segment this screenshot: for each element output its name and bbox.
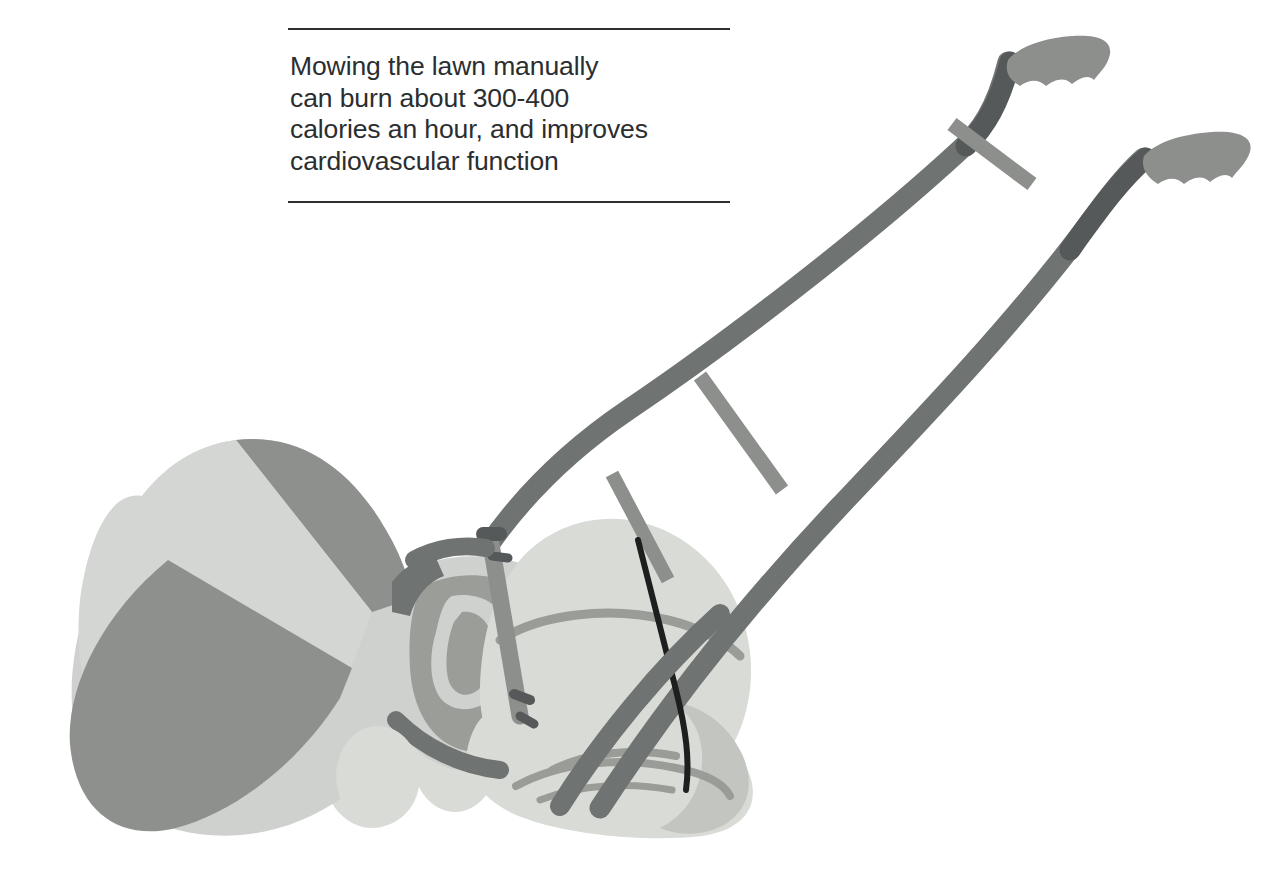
caption-text: Mowing the lawn manually can burn about … bbox=[288, 30, 730, 201]
mower-body bbox=[390, 556, 587, 772]
cross-brace-lower bbox=[612, 474, 668, 580]
ground-shadow bbox=[324, 708, 497, 828]
caption-block: Mowing the lawn manually can burn about … bbox=[288, 28, 730, 203]
blade-edge bbox=[638, 540, 688, 790]
grass-catcher bbox=[70, 439, 470, 836]
caption-rule-bottom bbox=[288, 201, 730, 203]
cross-brace-mid bbox=[700, 376, 782, 490]
right-handle-bar bbox=[600, 158, 1144, 808]
handle-grip-lower bbox=[1143, 132, 1251, 184]
handle-grip-upper bbox=[1007, 36, 1110, 86]
vertical-strut bbox=[490, 538, 520, 716]
reel-roller bbox=[467, 519, 753, 839]
cross-brace-upper bbox=[952, 124, 1032, 184]
infographic-page: Mowing the lawn manually can burn about … bbox=[0, 0, 1274, 881]
wheel bbox=[336, 726, 420, 826]
